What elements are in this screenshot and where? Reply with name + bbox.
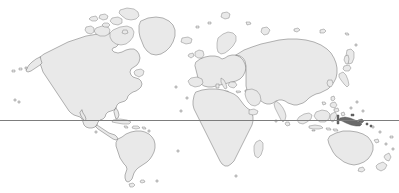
iceland	[181, 37, 192, 44]
arctic-islet-a	[99, 14, 108, 20]
azores-islet	[175, 86, 177, 88]
lesser-sunda-islands	[326, 128, 331, 130]
new-siberian-islands	[320, 29, 326, 33]
solomon-islands-dot-b[interactable]	[370, 125, 372, 127]
timor	[333, 129, 338, 131]
hispaniola	[132, 126, 140, 129]
greenland	[139, 17, 175, 55]
new-caledonia	[374, 139, 379, 143]
greece-balkans	[228, 82, 237, 88]
halmahera	[341, 112, 345, 116]
world-map	[0, 0, 399, 193]
vanuatu-islet	[379, 131, 381, 133]
sunda-islet	[312, 130, 315, 131]
central-america	[96, 125, 118, 140]
north-america-mainland	[40, 33, 142, 128]
florida-peninsula	[114, 108, 119, 119]
banks-island	[85, 26, 94, 34]
new-zealand-north-island	[384, 153, 391, 161]
arctic-islet-b	[89, 16, 98, 21]
png-west-border-mark[interactable]	[337, 115, 339, 124]
ellesmere-island	[119, 8, 139, 20]
philippines-mindanao	[334, 108, 339, 112]
pacific-islet-a	[372, 126, 374, 128]
pacific-islet-e	[362, 110, 364, 112]
aleutian-islet-c	[25, 67, 27, 69]
arctic-islet-d	[122, 30, 128, 34]
mariana-islet	[356, 101, 358, 103]
devon-island	[110, 17, 122, 25]
hainan	[322, 102, 326, 105]
aleutian-islet-b	[19, 68, 22, 70]
scandinavia	[217, 32, 236, 54]
pacific-islet-b	[385, 143, 387, 145]
alaska-peninsula	[26, 57, 42, 72]
japan-honshu	[339, 72, 349, 87]
japan-hokkaido	[343, 65, 351, 71]
horn-of-africa	[249, 109, 258, 115]
lesser-antilles	[148, 130, 150, 132]
crete	[236, 91, 241, 93]
pacific-islet-d	[350, 107, 352, 109]
korea-peninsula	[327, 80, 333, 87]
java	[309, 125, 323, 129]
southern-indian-islet	[235, 175, 237, 177]
iberia	[188, 77, 203, 87]
sumatra	[297, 113, 312, 124]
bering-islet	[355, 44, 357, 46]
arctic-islet-e	[208, 22, 211, 24]
galapagos-islet	[95, 131, 97, 133]
severnaya-zemlya	[294, 28, 300, 32]
new-zealand-south-island	[376, 162, 387, 171]
hawaii-islet-b	[18, 101, 20, 103]
franz-josef-land	[246, 22, 251, 25]
pacific-islet-c	[392, 148, 394, 150]
jamaica	[124, 126, 128, 128]
philippines-luzon	[330, 102, 337, 108]
tasmania	[358, 167, 365, 172]
arctic-islet-c	[102, 23, 110, 27]
cuba	[112, 119, 131, 124]
british-isles	[195, 50, 204, 58]
hawaii-islet-a	[14, 99, 16, 101]
africa-mainland	[193, 89, 253, 166]
aleutian-islet-a	[12, 70, 15, 72]
sakhalin	[344, 55, 349, 64]
region-australia-oceania	[328, 126, 394, 172]
puerto-rico	[142, 127, 146, 129]
world-map-container	[0, 0, 399, 193]
fiji-islet	[390, 136, 393, 138]
madagascar	[254, 140, 263, 158]
solomon-islands-dot-a[interactable]	[366, 123, 368, 125]
india-peninsula	[274, 101, 286, 122]
canary-islet	[186, 97, 188, 99]
wrangel-island	[345, 33, 349, 35]
region-south-america	[116, 131, 155, 187]
ireland	[188, 53, 194, 58]
south-atlantic-islet	[156, 180, 158, 182]
png-islet-north[interactable]	[351, 114, 354, 116]
baffin-island	[110, 26, 134, 45]
south-america-mainland	[116, 131, 155, 182]
sri-lanka	[285, 122, 290, 126]
corsica-sardinia	[216, 84, 219, 88]
atlantic-islet	[177, 150, 179, 152]
arctic-islet-f	[196, 26, 199, 28]
cape-verde-islet	[180, 110, 182, 112]
region-europe	[181, 32, 248, 93]
falkland-islands	[140, 180, 145, 183]
taiwan	[331, 96, 335, 101]
australia-mainland	[328, 131, 373, 165]
tierra-del-fuego	[129, 183, 135, 187]
newfoundland	[134, 69, 144, 77]
novaya-zemlya	[261, 27, 270, 35]
svalbard	[221, 12, 230, 19]
